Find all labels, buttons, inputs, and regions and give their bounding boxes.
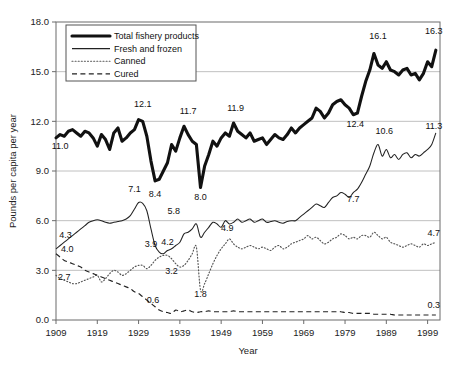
legend-label-canned[interactable]: Canned <box>114 56 146 66</box>
x-tick-label-1919: 1919 <box>87 327 108 338</box>
data-label-4-7-21: 4.7 <box>428 228 441 238</box>
series-line-cured <box>56 254 436 315</box>
data-label-3-9-17: 3.9 <box>145 239 158 249</box>
y-tick-label-9.0: 9.0 <box>36 165 49 176</box>
data-label-8-0-4: 8.0 <box>194 192 207 202</box>
data-label-16-3-8: 16.3 <box>425 26 443 36</box>
data-label-5-8-11: 5.8 <box>167 206 180 216</box>
data-label-8-4-2: 8.4 <box>149 189 162 199</box>
data-label-4-3-9: 4.3 <box>59 230 72 240</box>
y-axis-title: Pounds per capita per year <box>7 114 18 228</box>
x-tick-label-1939: 1939 <box>169 327 190 338</box>
series-line-fresh-and-frozen <box>56 133 436 254</box>
data-label-12-1-1: 12.1 <box>134 99 152 109</box>
x-tick-label-1969: 1969 <box>293 327 314 338</box>
data-label-4-9-20: 4.9 <box>221 223 234 233</box>
data-label-3-2-18: 3.2 <box>165 266 178 276</box>
data-label-10-6-14: 10.6 <box>375 126 393 136</box>
x-tick-label-1999: 1999 <box>417 327 438 338</box>
data-label-4-2-12: 4.2 <box>161 237 174 247</box>
data-label-7-1-10: 7.1 <box>128 184 141 194</box>
x-tick-label-1959: 1959 <box>252 327 273 338</box>
y-tick-label-12.0: 12.0 <box>31 116 50 127</box>
data-label-12-4-6: 12.4 <box>347 119 365 129</box>
y-tick-label-18.0: 18.0 <box>31 16 50 27</box>
y-tick-label-3.0: 3.0 <box>36 265 49 276</box>
data-label-11-9-5: 11.9 <box>227 103 244 113</box>
x-tick-label-1929: 1929 <box>128 327 149 338</box>
x-tick-label-1989: 1989 <box>376 327 397 338</box>
x-tick-label-1979: 1979 <box>334 327 355 338</box>
data-label-4-0-22: 4.0 <box>61 244 74 254</box>
legend-label-total-fishery-products[interactable]: Total fishery products <box>114 31 200 41</box>
chart-canvas: 0.03.06.09.012.015.018.01909191919291939… <box>0 0 457 372</box>
data-label-11-0-0: 11.0 <box>52 141 69 151</box>
y-tick-label-15.0: 15.0 <box>31 66 50 77</box>
data-label-16-1-7: 16.1 <box>369 31 387 41</box>
x-tick-label-1949: 1949 <box>211 327 232 338</box>
data-label-1-8-19: 1.8 <box>194 289 207 299</box>
y-tick-label-6.0: 6.0 <box>36 215 49 226</box>
x-axis-title: Year <box>238 345 257 356</box>
data-label-11-7-3: 11.7 <box>180 106 197 116</box>
series-line-canned <box>56 232 436 292</box>
x-tick-label-1909: 1909 <box>45 327 66 338</box>
legend-label-fresh-and-frozen[interactable]: Fresh and frozen <box>114 44 182 54</box>
data-label-7-7-13: 7.7 <box>347 194 360 204</box>
y-tick-label-0.0: 0.0 <box>36 314 49 325</box>
data-label-0-6-23: 0.6 <box>147 295 160 305</box>
data-label-11-3-15: 11.3 <box>425 121 442 131</box>
data-label-0-3-24: 0.3 <box>428 300 441 310</box>
legend-label-cured[interactable]: Cured <box>114 69 139 79</box>
data-label-2-7-16: 2.7 <box>58 272 71 282</box>
fishery-consumption-chart: 0.03.06.09.012.015.018.01909191919291939… <box>0 0 457 372</box>
